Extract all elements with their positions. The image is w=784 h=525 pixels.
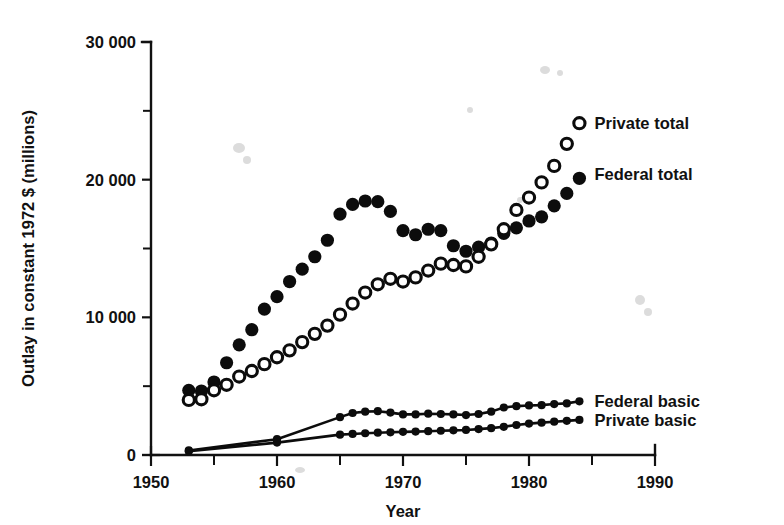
data-point bbox=[271, 352, 282, 363]
data-point bbox=[246, 365, 257, 376]
data-point bbox=[409, 228, 422, 241]
x-tick-label: 1980 bbox=[511, 473, 548, 491]
data-point bbox=[512, 402, 520, 410]
data-point bbox=[234, 371, 245, 382]
data-point bbox=[486, 239, 497, 250]
data-point bbox=[270, 290, 283, 303]
data-point bbox=[397, 276, 408, 287]
data-point bbox=[462, 426, 470, 434]
data-point bbox=[374, 429, 382, 437]
data-point bbox=[221, 379, 232, 390]
data-point bbox=[510, 221, 523, 234]
data-point bbox=[259, 359, 270, 370]
data-point bbox=[511, 204, 522, 215]
data-point bbox=[308, 250, 321, 263]
data-point bbox=[573, 172, 586, 185]
data-point bbox=[460, 261, 471, 272]
data-point bbox=[361, 408, 369, 416]
data-point bbox=[385, 273, 396, 284]
y-axis-title: Outlay in constant 1972 $ (millions) bbox=[19, 110, 37, 387]
data-point bbox=[500, 423, 508, 431]
data-point bbox=[399, 410, 407, 418]
data-point bbox=[371, 195, 384, 208]
data-point bbox=[359, 194, 372, 207]
data-point bbox=[522, 214, 535, 227]
data-point bbox=[336, 431, 344, 439]
data-point bbox=[346, 198, 359, 211]
data-point bbox=[561, 138, 572, 149]
data-point bbox=[347, 298, 358, 309]
y-tick-label: 0 bbox=[127, 446, 136, 464]
data-point bbox=[283, 275, 296, 288]
data-point bbox=[538, 401, 546, 409]
data-point bbox=[349, 409, 357, 417]
data-point bbox=[449, 410, 457, 418]
data-point bbox=[336, 413, 344, 421]
chart-tick-labels: 010 00020 00030 00019501960197019801990 bbox=[86, 33, 674, 491]
y-tick-label: 30 000 bbox=[86, 33, 136, 51]
data-point bbox=[386, 428, 394, 436]
data-point bbox=[361, 429, 369, 437]
data-point bbox=[410, 272, 421, 283]
series-label-federal-basic: Federal basic bbox=[595, 392, 700, 410]
data-point bbox=[422, 223, 435, 236]
data-point bbox=[258, 302, 271, 315]
data-point bbox=[423, 265, 434, 276]
data-point bbox=[322, 320, 333, 331]
series-private-basic bbox=[185, 416, 584, 455]
data-point bbox=[487, 424, 495, 432]
data-point bbox=[449, 426, 457, 434]
data-point bbox=[309, 328, 320, 339]
data-point bbox=[525, 401, 533, 409]
data-point bbox=[575, 416, 583, 424]
data-point bbox=[447, 239, 460, 252]
data-point bbox=[321, 234, 334, 247]
data-point bbox=[333, 207, 346, 220]
series-line bbox=[189, 420, 580, 451]
y-tick-label: 10 000 bbox=[86, 308, 136, 326]
data-point bbox=[424, 410, 432, 418]
data-point bbox=[297, 337, 308, 348]
x-tick-label: 1990 bbox=[637, 473, 674, 491]
data-point bbox=[296, 263, 309, 276]
data-point bbox=[523, 192, 534, 203]
chart-series-labels: Federal totalPrivate totalFederal basicP… bbox=[595, 114, 700, 429]
data-point bbox=[475, 425, 483, 433]
data-point bbox=[396, 224, 409, 237]
data-point bbox=[435, 258, 446, 269]
chart-canvas: 010 00020 00030 00019501960197019801990 … bbox=[0, 0, 784, 525]
data-point bbox=[536, 177, 547, 188]
data-point bbox=[412, 427, 420, 435]
data-point bbox=[563, 417, 571, 425]
data-point bbox=[233, 338, 246, 351]
data-point bbox=[475, 410, 483, 418]
data-point bbox=[574, 118, 585, 129]
data-point bbox=[498, 224, 509, 235]
data-point bbox=[512, 421, 520, 429]
data-point bbox=[424, 427, 432, 435]
data-point bbox=[360, 287, 371, 298]
x-tick-label: 1950 bbox=[133, 473, 170, 491]
data-point bbox=[434, 224, 447, 237]
data-point bbox=[548, 199, 561, 212]
data-point bbox=[334, 309, 345, 320]
data-point bbox=[448, 259, 459, 270]
x-axis-title: Year bbox=[386, 502, 421, 520]
data-point bbox=[273, 439, 281, 447]
series-label-federal-total: Federal total bbox=[595, 165, 693, 183]
data-point bbox=[245, 323, 258, 336]
data-point bbox=[487, 408, 495, 416]
chart-series bbox=[182, 118, 586, 456]
data-point bbox=[399, 428, 407, 436]
data-point bbox=[183, 394, 194, 405]
data-point bbox=[550, 400, 558, 408]
data-point bbox=[563, 399, 571, 407]
data-point bbox=[372, 279, 383, 290]
data-point bbox=[535, 210, 548, 223]
data-point bbox=[538, 419, 546, 427]
data-point bbox=[549, 160, 560, 171]
data-point bbox=[412, 410, 420, 418]
data-point bbox=[525, 420, 533, 428]
data-point bbox=[196, 394, 207, 405]
data-point bbox=[374, 407, 382, 415]
